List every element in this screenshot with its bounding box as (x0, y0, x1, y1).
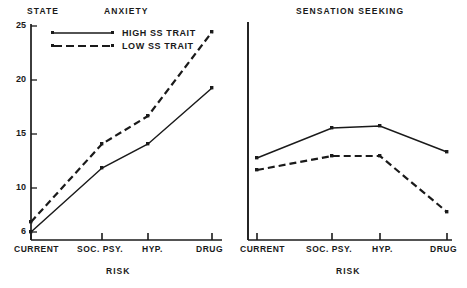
right-series-high-ss-trait (257, 126, 447, 158)
left-x-ticks (31, 233, 212, 240)
right-x-tick-label-hyp: HYP. (372, 244, 393, 254)
left-x-axis-title: RISK (106, 266, 130, 276)
panel-state-anxiety: STATE ANXIETY HIGH SS TRAIT LOW SS TRAIT (0, 0, 232, 288)
panel-sensation-seeking: SENSATION SEEKING (232, 0, 467, 288)
left-series-low-ss-trait (31, 32, 212, 222)
left-y-tick-label-6: 6 (6, 226, 26, 236)
right-x-ticks (257, 233, 447, 240)
left-series-high-ss-trait-markers (29, 86, 213, 233)
figure-two-panel-line-charts: STATE ANXIETY HIGH SS TRAIT LOW SS TRAIT (0, 0, 467, 288)
right-series-low-ss-trait-markers (255, 154, 448, 213)
left-y-tick-label-15: 15 (6, 128, 26, 138)
right-x-tick-label-soc-psy: SOC. PSY. (306, 244, 352, 254)
right-x-tick-label-drug: DRUG (430, 244, 457, 254)
right-x-axis-title: RISK (336, 266, 360, 276)
right-series-low-ss-trait (257, 156, 447, 212)
left-series-high-ss-trait (31, 88, 212, 232)
left-x-tick-label-drug: DRUG (196, 244, 223, 254)
left-y-ticks (31, 26, 37, 232)
left-x-tick-label-soc-psy: SOC. PSY. (77, 244, 123, 254)
left-x-tick-label-current: CURRENT (14, 244, 59, 254)
left-y-tick-label-10: 10 (6, 182, 26, 192)
left-y-tick-label-25: 25 (6, 20, 26, 30)
left-y-tick-label-20: 20 (6, 74, 26, 84)
left-x-tick-label-hyp: HYP. (142, 244, 163, 254)
right-x-tick-label-current: CURRENT (240, 244, 285, 254)
